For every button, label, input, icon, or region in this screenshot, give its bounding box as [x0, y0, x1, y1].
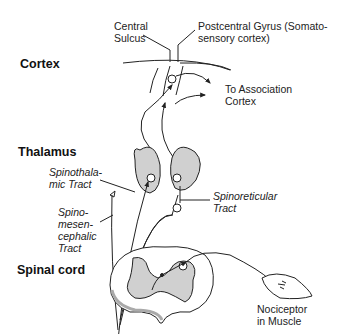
- label-nociceptor: Nociceptor in Muscle: [257, 303, 307, 327]
- label-spinothalamic-tract: Spinothala- mic Tract: [49, 166, 102, 190]
- label-association-cortex: To Association Cortex: [225, 83, 292, 107]
- label-spinomesencephalic-tract: Spino- mesen- cephalic Tract: [58, 206, 97, 254]
- thalamus-right: [171, 147, 201, 190]
- label-postcentral-gyrus: Postcentral Gyrus (Somato- sensory corte…: [198, 20, 328, 44]
- pain-pathway-diagram: Cortex Thalamus Spinal cord Central Sulc…: [0, 0, 341, 334]
- level-label-cortex: Cortex: [20, 58, 60, 70]
- level-label-thalamus: Thalamus: [18, 146, 76, 158]
- muscle: [262, 274, 312, 299]
- level-label-spinal-cord: Spinal cord: [17, 264, 85, 276]
- label-central-sulcus: Central Sulcus: [114, 20, 148, 44]
- postcentral-pointer: [178, 30, 195, 62]
- label-spinoreticular-tract: Spinoreticular Tract: [213, 190, 277, 214]
